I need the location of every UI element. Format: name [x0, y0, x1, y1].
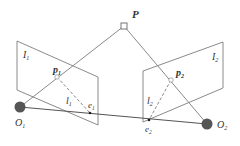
label-e2: e2	[145, 124, 152, 135]
baseline	[20, 107, 207, 124]
epipole-e1-marker	[89, 112, 92, 115]
camera-center-o2	[202, 119, 213, 130]
epipolar-line-1	[57, 77, 90, 113]
label-e1: e1	[88, 100, 95, 111]
label-p1: p1	[52, 64, 61, 76]
epipolar-line-2	[149, 80, 171, 120]
ray-o1-p	[20, 26, 124, 107]
camera-center-o1	[15, 102, 26, 113]
epipolar-diagram: P I1 I2 p1 p2 l1 l2 e1 e2 O1 O2	[0, 0, 240, 146]
label-I1: I1	[22, 49, 29, 61]
label-l1: l1	[66, 95, 72, 107]
image-plane-2	[143, 42, 223, 122]
ray-o2-p	[124, 26, 207, 124]
point-P-marker	[121, 23, 127, 29]
label-O1: O1	[15, 117, 25, 129]
label-P: P	[132, 8, 139, 20]
epipole-e2-marker	[148, 119, 151, 122]
label-I2: I2	[211, 51, 218, 63]
label-O2: O2	[217, 119, 227, 131]
label-l2: l2	[147, 95, 153, 107]
point-p2-marker	[169, 78, 173, 82]
label-p2: p2	[175, 67, 184, 79]
